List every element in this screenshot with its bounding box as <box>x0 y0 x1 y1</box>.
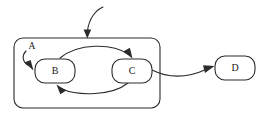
edge-c-to-b[interactable] <box>57 83 129 94</box>
initial-arrow-head-icon <box>24 60 33 71</box>
edge-c-to-d[interactable] <box>152 65 215 76</box>
state-machine-diagram: A B <box>0 0 269 117</box>
state-node-c[interactable]: C <box>112 59 152 83</box>
state-node-d[interactable]: D <box>215 56 255 80</box>
state-node-b[interactable]: B <box>35 59 75 83</box>
c-to-b-arrow-path <box>62 83 128 94</box>
edge-b-to-c[interactable] <box>60 46 133 58</box>
entry-arrow-path <box>88 7 104 31</box>
state-d-label: D <box>231 62 238 73</box>
region-a-label: A <box>29 41 36 51</box>
state-c-label: C <box>129 65 136 76</box>
state-b-label: B <box>52 65 59 76</box>
entry-arrow-head-icon <box>84 30 92 39</box>
edge-entry-to-region-a[interactable] <box>84 7 103 39</box>
diagram-canvas: A B <box>0 0 269 117</box>
b-to-c-arrow-head-icon <box>123 48 132 59</box>
c-to-b-arrow-head-icon <box>57 85 67 95</box>
edge-initial-to-b[interactable] <box>23 51 33 71</box>
b-to-c-arrow-path <box>60 46 128 58</box>
c-to-d-arrow-head-icon <box>203 65 215 73</box>
